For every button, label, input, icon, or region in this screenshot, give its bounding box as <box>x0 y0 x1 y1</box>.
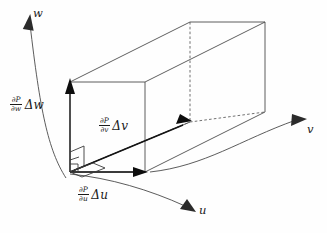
fraction-dP-dv: ∂P ∂v <box>99 117 110 134</box>
label-partial-P-partial-v-delta-v: ∂P ∂v Δv <box>99 117 128 134</box>
fraction-denominator: ∂w <box>10 105 22 113</box>
increment-delta-v: Δv <box>112 120 128 132</box>
increment-delta-w: Δw <box>25 99 44 111</box>
increment-delta-u: Δu <box>91 189 108 201</box>
fraction-denominator: ∂u <box>78 195 89 203</box>
label-partial-P-partial-u-delta-u: ∂P ∂u Δu <box>78 186 108 203</box>
vector-dP-dw <box>65 78 75 172</box>
axis-label-u: u <box>199 203 206 217</box>
label-partial-P-partial-w-delta-w: ∂P ∂w Δw <box>10 96 44 113</box>
fraction-dP-du: ∂P ∂u <box>78 186 89 203</box>
figure-canvas: ∂P ∂w Δw ∂P ∂v Δv ∂P ∂u Δu w v u <box>0 0 327 233</box>
axis-label-v: v <box>307 122 314 136</box>
parallelepiped-diagram <box>0 0 327 233</box>
box-solid-edges <box>70 22 265 172</box>
right-angle-marker-vertical <box>70 146 84 172</box>
fraction-dP-dw: ∂P ∂w <box>10 96 22 113</box>
box-hidden-edges <box>70 22 265 172</box>
axis-v <box>150 114 307 172</box>
vector-dP-dv <box>70 114 192 172</box>
axis-label-w: w <box>33 6 43 20</box>
fraction-denominator: ∂v <box>99 126 110 134</box>
